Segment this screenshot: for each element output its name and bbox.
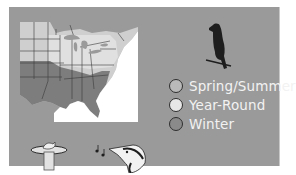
legend-label: Spring/Summer	[189, 78, 296, 94]
legend-label: Winter	[189, 116, 234, 132]
legend-item-year-round: Year-Round	[169, 95, 296, 114]
bird-bath-icon	[29, 140, 69, 172]
legend: Spring/Summer Year-Round Winter	[169, 76, 296, 133]
legend-item-spring-summer: Spring/Summer	[169, 76, 296, 95]
winter-swatch-icon	[169, 117, 183, 131]
range-map-card: Spring/Summer Year-Round Winter	[9, 7, 280, 166]
year-round-swatch-icon	[169, 98, 183, 112]
legend-label: Year-Round	[189, 97, 265, 113]
range-map	[20, 19, 138, 122]
bird-song-icon	[93, 141, 149, 173]
bird-silhouette-icon	[205, 20, 233, 74]
legend-item-winter: Winter	[169, 114, 296, 133]
spring-summer-swatch-icon	[169, 79, 183, 93]
